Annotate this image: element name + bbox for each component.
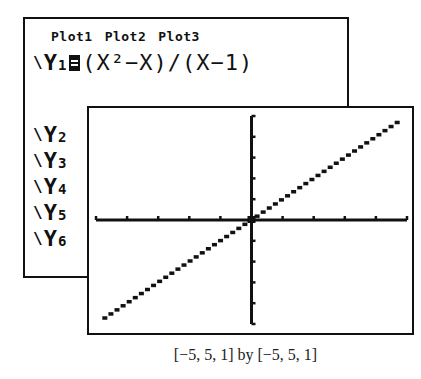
plot1-toggle[interactable]: Plot1 xyxy=(51,29,93,44)
graph-plot xyxy=(89,108,412,333)
function-row-y4[interactable]: \Y4 xyxy=(33,176,67,200)
plot-selectors: Plot1Plot2Plot3 xyxy=(51,29,212,44)
plot3-toggle[interactable]: Plot3 xyxy=(158,29,200,44)
function-row-y2[interactable]: \Y2 xyxy=(33,124,67,148)
graph-style-icon[interactable]: \ xyxy=(33,176,44,198)
graph-screen xyxy=(87,106,414,335)
function-row-y1[interactable]: \Y1(X²−X)/(X−1) xyxy=(33,52,253,76)
graph-style-icon[interactable]: \ xyxy=(33,124,44,146)
function-row-y6[interactable]: \Y6 xyxy=(33,228,67,252)
function-row-y3[interactable]: \Y3 xyxy=(33,150,67,174)
y1-expression[interactable]: (X²−X)/(X−1) xyxy=(82,50,253,75)
origin-marker xyxy=(248,216,256,223)
window-caption: [−5, 5, 1] by [−5, 5, 1] xyxy=(0,346,421,364)
plot2-toggle[interactable]: Plot2 xyxy=(105,29,147,44)
graph-style-icon[interactable]: \ xyxy=(33,202,44,224)
selected-equals-icon[interactable] xyxy=(69,55,80,71)
function-row-y5[interactable]: \Y5 xyxy=(33,202,67,226)
graph-style-icon[interactable]: \ xyxy=(33,52,44,74)
graph-style-icon[interactable]: \ xyxy=(33,150,44,172)
graph-style-icon[interactable]: \ xyxy=(33,228,44,250)
